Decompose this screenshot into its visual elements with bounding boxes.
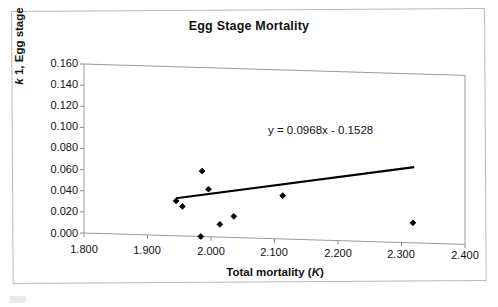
chart-title: Egg Stage Mortality: [0, 19, 498, 33]
scan-artifact: [10, 296, 26, 303]
x-tick-label: 1.800: [62, 243, 106, 255]
x-tick-label: 2.200: [316, 247, 360, 259]
y-tick-label: 0.100: [34, 120, 78, 132]
x-tick-label: 2.400: [443, 249, 487, 261]
x-axis-title-symbol: K: [312, 266, 320, 278]
y-tick-label: 0.040: [34, 184, 78, 196]
x-axis-title: Total mortality (K): [84, 266, 466, 278]
y-tick-label: 0.080: [34, 141, 78, 153]
trendline-equation-label: y = 0.0968x - 0.1528: [268, 124, 373, 136]
x-axis-title-prefix: Total mortality (: [226, 266, 311, 278]
figure-canvas: Egg Stage Mortality k 1, Egg stage Total…: [0, 0, 498, 307]
x-tick-label: 2.100: [252, 246, 296, 258]
x-tick-label: 2.300: [379, 248, 423, 260]
x-axis-title-suffix: ): [320, 266, 324, 278]
y-tick-label: 0.120: [34, 99, 78, 111]
x-tick-label: 2.000: [189, 245, 233, 257]
y-axis-title-text: 1, Egg stage: [13, 7, 25, 78]
y-tick-label: 0.140: [34, 78, 78, 90]
y-tick-label: 0.020: [34, 205, 78, 217]
y-axis-title: k 1, Egg stage: [13, 0, 29, 114]
y-tick-label: 0.000: [34, 227, 78, 239]
y-axis-title-symbol: k: [13, 78, 25, 84]
y-tick-label: 0.160: [34, 57, 78, 69]
y-tick-label: 0.060: [34, 163, 78, 175]
x-tick-label: 1.900: [125, 244, 169, 256]
